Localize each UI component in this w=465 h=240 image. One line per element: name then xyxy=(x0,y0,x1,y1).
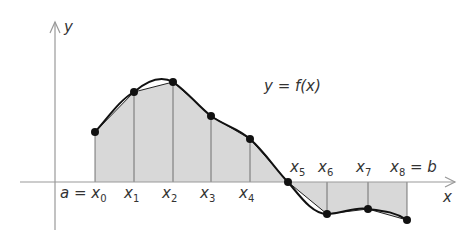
label-x8-b: x8 = b xyxy=(390,160,437,178)
x-axis-label: x xyxy=(443,190,452,205)
label-x3: x3 xyxy=(200,186,215,204)
label-x6: x6 xyxy=(318,160,333,178)
label-x2: x2 xyxy=(162,186,177,204)
curve-label: y = f(x) xyxy=(264,79,321,94)
label-x1: x1 xyxy=(124,186,139,204)
y-axis-label: y xyxy=(64,20,73,35)
label-x7: x7 xyxy=(356,160,371,178)
label-x5: x5 xyxy=(290,160,305,178)
label-x0: a = x0 xyxy=(60,186,107,204)
label-x4: x4 xyxy=(239,186,254,204)
